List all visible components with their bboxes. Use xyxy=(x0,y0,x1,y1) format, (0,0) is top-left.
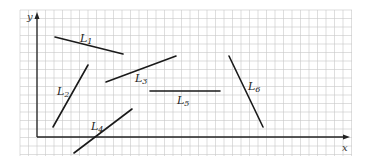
y-axis-label: y xyxy=(26,11,33,22)
line-segments-diagram: x y L1L2L3L4L5L6 xyxy=(0,0,369,161)
segments-group: L1L2L3L4L5L6 xyxy=(53,32,263,153)
segment-label: L5 xyxy=(176,94,189,108)
graph-paper-grid xyxy=(20,10,352,156)
segment-label: L1 xyxy=(79,32,92,46)
segment-label: L6 xyxy=(247,80,260,94)
segment-l3: L3 xyxy=(106,56,176,86)
x-axis-label: x xyxy=(342,142,348,153)
coordinate-axes: x y xyxy=(26,11,350,153)
segment-label: L4 xyxy=(90,120,103,134)
segment-label: L3 xyxy=(134,72,147,86)
y-axis-arrow-icon xyxy=(35,12,40,19)
segment-l5: L5 xyxy=(150,91,220,108)
segment-l2: L2 xyxy=(53,65,88,127)
segment-label: L2 xyxy=(56,85,69,99)
segment-l4: L4 xyxy=(74,109,132,153)
x-axis-arrow-icon xyxy=(343,135,350,140)
